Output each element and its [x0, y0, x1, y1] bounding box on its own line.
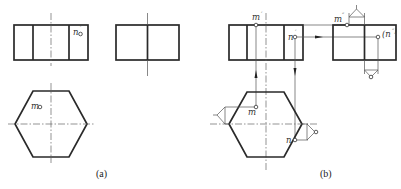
arrow-up-icon	[255, 70, 258, 78]
transfer-point	[369, 75, 373, 79]
caption-a: (a)	[96, 168, 107, 180]
panel-a: n ′ m (a)	[8, 13, 179, 180]
point-m-prime	[254, 23, 258, 27]
point-n-prime	[79, 32, 83, 36]
point-label-n-prime: n	[73, 27, 78, 37]
point-n-prime	[293, 35, 297, 39]
point-n-double-prime	[376, 35, 380, 39]
point-label-n: n	[286, 135, 291, 145]
point-label-m: m	[31, 101, 39, 111]
caption-b: (b)	[320, 168, 332, 180]
point-m	[254, 105, 258, 109]
point-m	[38, 105, 42, 109]
arrow-right-icon	[315, 36, 323, 39]
hexagon-outline	[229, 92, 302, 157]
arrow-down-icon	[294, 68, 297, 76]
point-label-n-double-prime: (n	[382, 29, 391, 39]
point-m-double-prime	[345, 23, 349, 27]
panel-b-side-view: m ″ (n ″)	[333, 5, 397, 79]
dimension-triangle	[217, 107, 225, 124]
double-prime-mark: ″)	[392, 27, 397, 34]
point-label-m-prime: m	[252, 12, 260, 22]
dimension-triangle	[307, 124, 315, 140]
panel-a-side-view	[116, 13, 179, 76]
transfer-point	[314, 130, 318, 134]
point-n	[293, 138, 297, 142]
point-label-n-prime: n	[288, 32, 293, 42]
point-label-m-double-prime: m	[334, 14, 342, 24]
panel-a-front-view: n ′	[14, 13, 88, 66]
panel-b: m ′ n ′	[210, 5, 397, 180]
prime-mark: ′	[261, 10, 263, 17]
panel-b-top-view: m n	[210, 92, 318, 157]
dimension-triangle	[349, 9, 365, 17]
projection-diagram: n ′ m (a) m ′	[0, 0, 401, 189]
projection-lines	[255, 25, 379, 140]
double-prime-mark: ″	[342, 11, 345, 18]
prime-mark: ′	[295, 28, 297, 35]
panel-a-top-view: m	[8, 83, 95, 163]
